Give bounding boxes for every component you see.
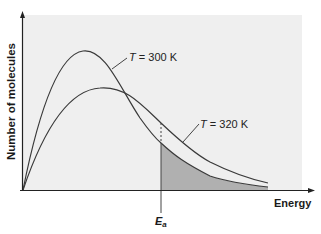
x-axis-arrow-icon	[308, 188, 315, 193]
boltzmann-distribution-chart: T = 300 K T = 320 K Number of molecules …	[0, 0, 321, 234]
x-axis-label: Energy	[274, 197, 312, 209]
y-axis-arrow-icon	[20, 11, 25, 18]
t300-label: T = 300 K	[129, 51, 178, 63]
t320-label: T = 320 K	[200, 118, 249, 130]
y-axis-label: Number of molecules	[5, 43, 17, 160]
ea-label: Ea	[155, 215, 167, 229]
